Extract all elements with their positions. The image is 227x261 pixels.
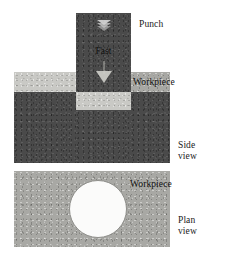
punch-label: Punch <box>139 19 163 30</box>
plan-view-workpiece-label: Workpiece <box>130 179 172 190</box>
slug <box>76 92 131 110</box>
workpiece-top-strip-left <box>14 72 76 92</box>
punch-motion-label: Fast <box>76 46 131 57</box>
punching-operation-figure: Fast Workpiece Punch Side view Workpiece… <box>0 0 227 261</box>
side-view-workpiece-label: Workpiece <box>133 77 175 88</box>
workpiece-body-center <box>76 110 131 163</box>
double-chevron-down-icon <box>76 20 131 29</box>
plan-view-workpiece: Workpiece <box>14 171 170 247</box>
workpiece-body-left <box>14 92 76 163</box>
workpiece-body-right <box>131 92 170 163</box>
plan-view-caption: Plan view <box>178 215 197 237</box>
circle-hole-icon <box>69 180 127 238</box>
triangle-down-icon <box>96 71 112 83</box>
side-view-caption: Side view <box>178 140 197 162</box>
punch-body: Fast <box>76 13 131 92</box>
